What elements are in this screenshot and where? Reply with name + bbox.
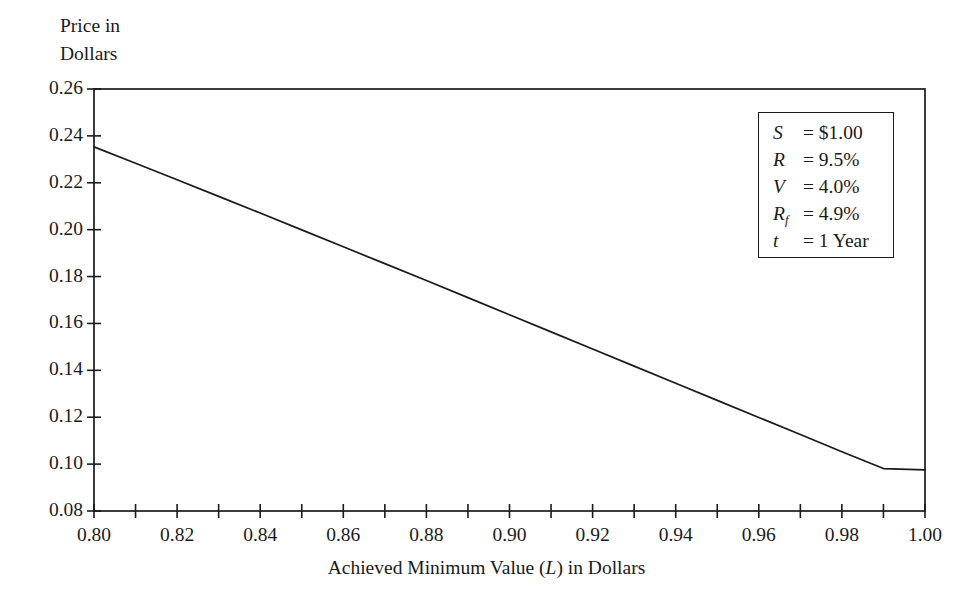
x-tick-label: 0.82: [142, 524, 212, 546]
x-tick-label: 0.92: [558, 524, 628, 546]
y-tick-label: 0.10: [25, 452, 83, 474]
y-tick-label: 0.20: [25, 218, 83, 240]
x-axis-title: Achieved Minimum Value (L) in Dollars: [0, 557, 973, 579]
legend-symbol: t: [773, 227, 803, 254]
parameter-legend-box: S= $1.00R= 9.5%V= 4.0%Rf= 4.9%t= 1 Year: [758, 112, 894, 258]
x-tick-label: 0.94: [641, 524, 711, 546]
y-tick-label: 0.14: [25, 358, 83, 380]
chart-figure: Price in Dollars 0.080.100.120.140.160.1…: [0, 0, 973, 614]
y-tick-label: 0.16: [25, 311, 83, 333]
x-axis-title-suffix: ) in Dollars: [556, 557, 645, 578]
x-tick-label: 0.90: [475, 524, 545, 546]
legend-symbol: S: [773, 119, 803, 146]
x-tick-label: 0.98: [807, 524, 877, 546]
legend-row: S= $1.00: [759, 119, 893, 146]
legend-symbol: R: [773, 146, 803, 173]
y-tick-label: 0.26: [25, 77, 83, 99]
y-tick-label: 0.08: [25, 499, 83, 521]
legend-row: t= 1 Year: [759, 227, 893, 254]
legend-value: = $1.00: [803, 119, 863, 146]
legend-symbol: Rf: [773, 200, 803, 229]
x-tick-label: 1.00: [890, 524, 960, 546]
x-axis-title-symbol: L: [546, 557, 557, 578]
y-tick-label: 0.22: [25, 171, 83, 193]
x-tick-label: 0.96: [724, 524, 794, 546]
x-tick-marks: [94, 504, 925, 518]
legend-row: V= 4.0%: [759, 173, 893, 200]
legend-value: = 4.9%: [803, 200, 860, 227]
legend-symbol: V: [773, 173, 803, 200]
x-tick-label: 0.80: [59, 524, 129, 546]
y-tick-label: 0.18: [25, 265, 83, 287]
legend-row: R= 9.5%: [759, 146, 893, 173]
plot-canvas: [0, 0, 973, 614]
legend-symbol-subscript: f: [785, 212, 789, 227]
x-tick-label: 0.84: [225, 524, 295, 546]
y-tick-label: 0.24: [25, 124, 83, 146]
legend-row: Rf= 4.9%: [759, 200, 893, 227]
legend-value: = 1 Year: [803, 227, 869, 254]
legend-value: = 9.5%: [803, 146, 860, 173]
legend-value: = 4.0%: [803, 173, 860, 200]
x-tick-label: 0.86: [308, 524, 378, 546]
x-axis-title-prefix: Achieved Minimum Value (: [328, 557, 546, 578]
y-tick-label: 0.12: [25, 405, 83, 427]
x-tick-label: 0.88: [391, 524, 461, 546]
